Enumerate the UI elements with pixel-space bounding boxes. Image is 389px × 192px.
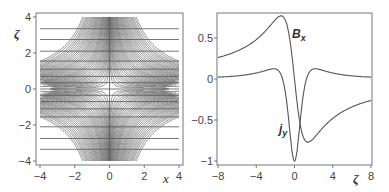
y-tick-label: −4 [18, 155, 31, 167]
x-tick-label: −2 [68, 170, 81, 182]
right-x-axis-label: ζ [353, 171, 360, 186]
bx-label: Bx [292, 27, 307, 43]
y-tick-label: 0 [207, 73, 213, 85]
jy-label: jy [277, 122, 288, 138]
x-tick-label: 0 [291, 170, 297, 182]
x-tick-label: 0 [106, 170, 112, 182]
x-tick-label: 2 [141, 170, 147, 182]
field-lines [37, 17, 182, 161]
y-tick-label: −1 [200, 155, 213, 167]
y-tick-label: 0 [25, 83, 31, 95]
left-x-axis-label: x [162, 171, 169, 186]
x-tick-label: −4 [34, 170, 47, 182]
x-tick-label: 8 [368, 170, 374, 182]
y-tick-label: −0.5 [191, 114, 213, 126]
profile-line-plot: −8−40480.50−0.5−1 Bx jy ζ [191, 13, 374, 186]
field-line-plot: −4−2024−4−2024 ζ x [14, 11, 183, 186]
right-axis-ticks: −8−40480.50−0.5−1 [191, 32, 374, 182]
left-y-axis-label: ζ [14, 26, 21, 41]
y-tick-label: 0.5 [198, 32, 213, 44]
x-tick-label: −8 [212, 170, 225, 182]
y-tick-label: 4 [25, 11, 31, 23]
x-tick-label: 4 [176, 170, 182, 182]
y-tick-label: −2 [18, 119, 31, 131]
x-tick-label: −4 [250, 170, 263, 182]
x-tick-label: 4 [330, 170, 336, 182]
figure: −4−2024−4−2024 ζ x −8−40480.50−0.5−1 Bx … [0, 0, 389, 192]
y-tick-label: 2 [25, 47, 31, 59]
